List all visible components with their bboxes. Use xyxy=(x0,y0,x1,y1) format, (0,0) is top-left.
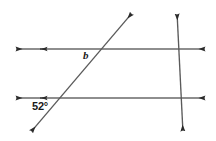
vertical-transversal xyxy=(177,14,183,131)
geometry-figure: b 52° xyxy=(0,0,216,141)
angle-label-52: 52° xyxy=(32,101,48,112)
geometry-canvas xyxy=(0,0,216,141)
angle-label-b: b xyxy=(83,50,89,61)
parallel-tick-marks-group xyxy=(40,49,45,98)
diagonal-transversal xyxy=(31,14,131,132)
lines-group xyxy=(16,14,205,132)
